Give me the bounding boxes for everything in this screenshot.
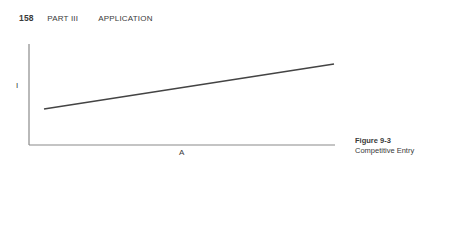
y-axis-label: I: [16, 81, 18, 90]
figure-number: Figure 9-3: [355, 136, 414, 146]
figure-caption: Figure 9-3 Competitive Entry: [355, 136, 414, 156]
data-line: [44, 64, 334, 109]
figure-title: Competitive Entry: [355, 146, 414, 156]
x-axis-label: A: [179, 148, 184, 157]
